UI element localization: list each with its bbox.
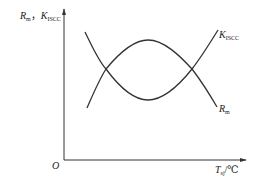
kiscc-label-sub: ISCC bbox=[226, 35, 239, 41]
rm-label-sub: m bbox=[225, 109, 230, 115]
x-axis-label: Tsj/℃ bbox=[215, 165, 239, 176]
rm-curve bbox=[85, 32, 217, 107]
kiscc-curve bbox=[87, 30, 218, 108]
y-label-k-sub: ISCC bbox=[47, 16, 60, 22]
y-label-separator: ， bbox=[31, 10, 41, 21]
kiscc-label-main: K bbox=[219, 29, 226, 40]
chart-canvas bbox=[0, 0, 260, 185]
y-axis-label: Rm，KISCC bbox=[20, 11, 61, 22]
series-label-kiscc: KISCC bbox=[219, 30, 239, 41]
origin-label: O bbox=[52, 161, 59, 171]
x-label-unit: /℃ bbox=[225, 164, 239, 175]
series-label-rm: Rm bbox=[219, 104, 230, 115]
